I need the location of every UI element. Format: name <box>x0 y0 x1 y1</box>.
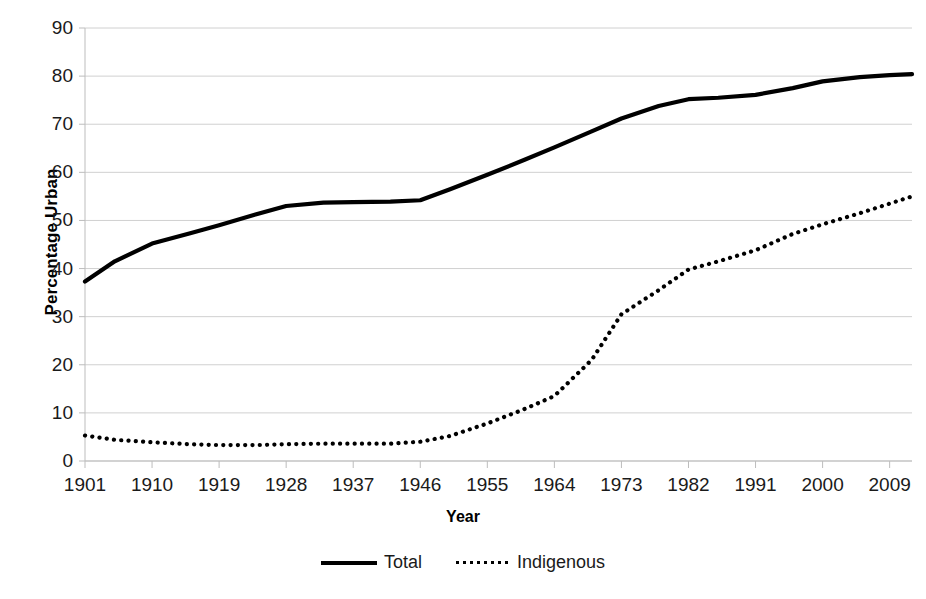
legend-label: Total <box>384 552 422 573</box>
legend-item-total[interactable]: Total <box>321 552 422 573</box>
x-tick-label: 1919 <box>184 475 254 494</box>
x-tick-label: 1928 <box>251 475 321 494</box>
legend-swatch-dotted-icon <box>454 561 510 564</box>
chart-container: Percentage Urban 9080706050403020100 190… <box>0 0 926 599</box>
x-axis-title: Year <box>0 508 926 526</box>
legend-label: Indigenous <box>517 552 605 573</box>
x-tick-label: 1973 <box>586 475 656 494</box>
x-tick-label: 1964 <box>519 475 589 494</box>
series-line-total <box>85 74 912 281</box>
x-tick-label: 1982 <box>653 475 723 494</box>
x-tick-label: 1910 <box>117 475 187 494</box>
chart-legend: TotalIndigenous <box>0 552 926 573</box>
series-line-indigenous <box>85 196 912 445</box>
x-tick-label: 1991 <box>721 475 791 494</box>
x-tick-label: 1946 <box>385 475 455 494</box>
x-tick-label: 1901 <box>50 475 120 494</box>
x-tick-label: 1937 <box>318 475 388 494</box>
x-tick-label: 2000 <box>788 475 858 494</box>
legend-item-indigenous[interactable]: Indigenous <box>454 552 605 573</box>
x-tick-label: 2009 <box>855 475 925 494</box>
legend-swatch-solid-icon <box>321 561 377 565</box>
x-tick-label: 1955 <box>452 475 522 494</box>
